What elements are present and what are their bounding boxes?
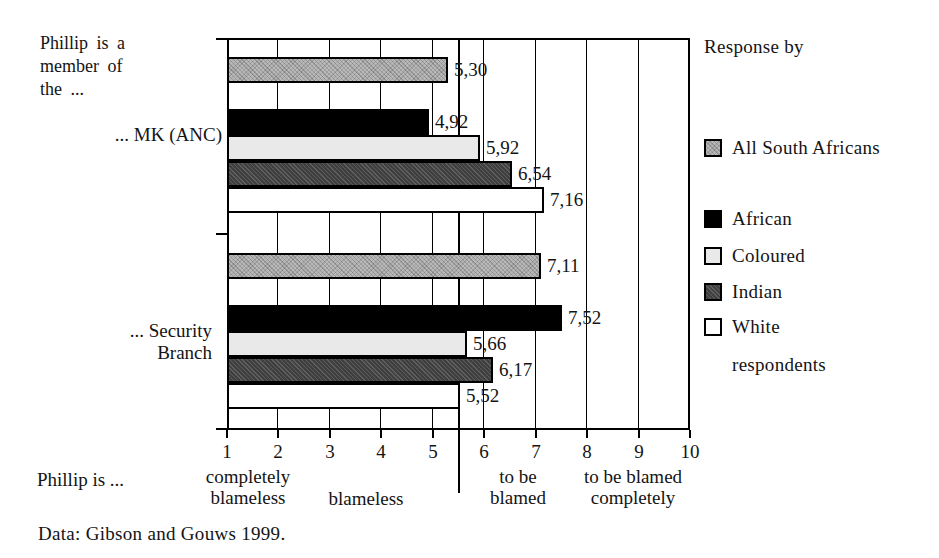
scale-annotation-0: completely blameless [206,466,290,508]
y-axis-category-tick-0 [216,38,227,40]
legend-item-indian: Indian [704,281,782,303]
x-axis-tick-3 [329,430,331,438]
x-axis-tick-4 [380,430,382,438]
legend-item-label: All South Africans [732,137,880,159]
legend-item-all-south-africans: All South Africans [704,137,880,159]
bar-value-label: 6,17 [499,359,532,381]
legend-item-label: Indian [732,281,782,303]
x-axis-tick-7 [535,430,537,438]
legend-swatch-coloured [704,247,722,265]
x-axis-tick-8 [586,430,588,438]
bar-indian-group1 [227,161,512,187]
bar-african-group1 [227,109,429,135]
x-axis-tick-label-1: 1 [222,442,232,462]
plot-area: 5,307,114,927,525,925,666,546,177,165,52… [227,38,690,430]
gridline-7 [535,38,536,430]
x-axis-tick-10 [689,430,691,438]
legend-title: Response by [704,36,804,58]
category-label-mk-anc: ... MK (ANC) [60,124,222,146]
legend-footer: respondents [732,354,826,376]
scale-lead-in-label: Phillip is ... [37,469,124,491]
bar-indian-group2 [227,357,493,383]
x-axis-tick-label-5: 5 [428,442,438,462]
x-axis-tick-label-7: 7 [531,442,541,462]
x-axis-tick-label-4: 4 [376,442,386,462]
x-axis-tick-label-2: 2 [273,442,283,462]
source-note: Data: Gibson and Gouws 1999. [38,523,285,545]
bar-white-group1 [227,187,544,213]
gridline-8 [586,38,587,430]
bar-african-group2 [227,305,562,331]
x-axis-tick-5 [432,430,434,438]
bar-all-south-africans-group2 [227,253,541,279]
bar-coloured-group1 [227,135,480,161]
blame-attribution-chart: Phillip is a member of the ... ... MK (A… [0,0,939,558]
bar-value-label: 5,30 [454,59,487,81]
bar-value-label: 5,66 [473,333,506,355]
x-axis-tick-label-8: 8 [582,442,592,462]
bar-white-group2 [227,383,460,409]
y-axis-category-tick-2 [216,428,227,430]
y-axis-category-tick-1 [216,233,227,235]
bar-value-label: 7,52 [568,307,601,329]
legend-item-label: African [732,208,792,230]
bar-value-label: 5,92 [486,137,519,159]
bar-value-label: 7,11 [547,255,580,277]
legend-item-african: African [704,208,792,230]
legend-item-white: White [704,316,780,338]
bar-value-label: 4,92 [435,111,468,133]
bar-value-label: 6,54 [518,163,551,185]
x-axis-tick-label-6: 6 [479,442,489,462]
x-axis-tick-9 [638,430,640,438]
gridline-9 [638,38,639,430]
legend-item-label: White [732,316,780,338]
legend-item-coloured: Coloured [704,245,805,267]
legend-swatch-all-south-africans [704,139,722,157]
x-axis-tick-label-3: 3 [325,442,335,462]
legend-swatch-indian [704,283,722,301]
x-axis-tick-2 [277,430,279,438]
scale-annotation-2: to be blamed [490,466,546,508]
x-axis-tick-label-10: 10 [681,442,700,462]
legend: Response by respondents All South Africa… [704,36,937,416]
scale-annotation-1: blameless [329,488,404,509]
x-axis-tick-1 [226,430,228,438]
bar-all-south-africans-group1 [227,57,448,83]
bar-coloured-group2 [227,331,467,357]
x-axis-tick-6 [483,430,485,438]
bar-value-label: 7,16 [550,189,583,211]
legend-swatch-white [704,318,722,336]
chart-note-question-stem: Phillip is a member of the ... [40,32,125,101]
category-label-security-branch: ... Security Branch [60,320,212,364]
legend-swatch-african [704,210,722,228]
x-axis-tick-label-9: 9 [634,442,644,462]
bar-value-label: 5,52 [466,385,499,407]
legend-item-label: Coloured [732,245,805,267]
scale-annotation-3: to be blamed completely [584,466,682,508]
